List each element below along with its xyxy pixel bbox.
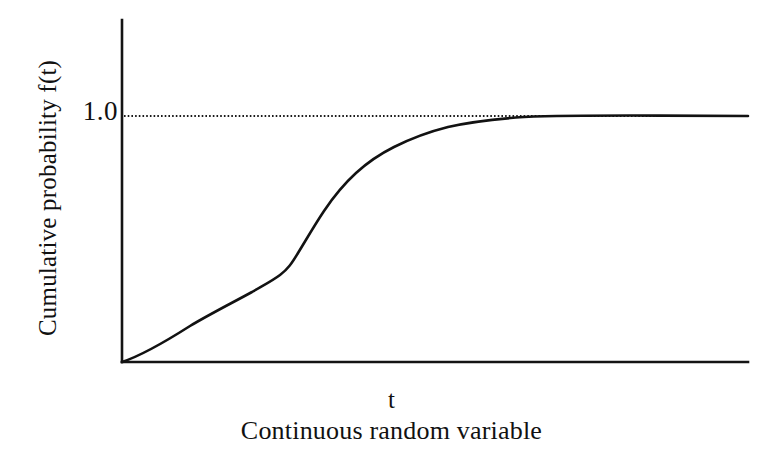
cdf-figure: 1.0 Cumulative probability f(t) t Contin… [0, 0, 783, 463]
y-axis-title: Cumulative probability f(t) [34, 60, 62, 336]
cdf-curve [122, 116, 748, 362]
x-axis-title: Continuous random variable [0, 418, 783, 444]
x-axis-symbol: t [0, 387, 783, 412]
